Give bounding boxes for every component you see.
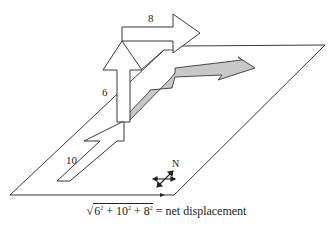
label-10: 10 <box>66 154 78 166</box>
edge-arrow-mark <box>160 193 165 197</box>
displacement-diagram: 8 6 10 N <box>0 0 333 225</box>
compass-icon <box>153 171 175 187</box>
plus: + <box>103 204 116 218</box>
term2: 10 <box>116 204 128 218</box>
label-north: N <box>172 158 179 169</box>
horizontal-arrow <box>122 14 200 53</box>
sqrt-symbol: √ <box>87 204 94 218</box>
label-6: 6 <box>102 86 108 98</box>
sqrt-radicand: 62 + 102 + 82 <box>93 203 153 219</box>
caption-formula: √62 + 102 + 82 = net displacement <box>0 203 333 219</box>
ground-arrow <box>57 122 124 181</box>
caption-rhs: = net displacement <box>153 204 247 218</box>
ground-plane <box>10 45 325 195</box>
label-8: 8 <box>148 12 154 24</box>
plus: + <box>131 204 144 218</box>
